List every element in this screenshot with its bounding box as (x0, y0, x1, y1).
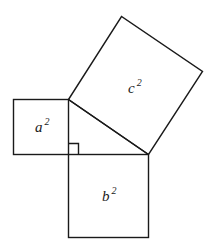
label-a-squared: a2 (35, 116, 50, 135)
square-c (69, 17, 203, 155)
label-c-squared: c2 (128, 77, 142, 96)
hypotenuse (69, 100, 149, 155)
pythagoras-diagram: a2 b2 c2 (0, 0, 214, 249)
label-b-squared: b2 (102, 185, 117, 204)
right-angle-marker (69, 144, 79, 155)
